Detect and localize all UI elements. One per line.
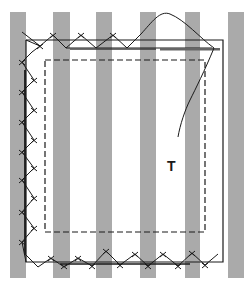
left-catch-stitch — [22, 40, 40, 262]
sewing-diagram — [0, 0, 252, 296]
label-t: T — [167, 158, 176, 174]
stitch-cross-marks — [19, 33, 208, 269]
